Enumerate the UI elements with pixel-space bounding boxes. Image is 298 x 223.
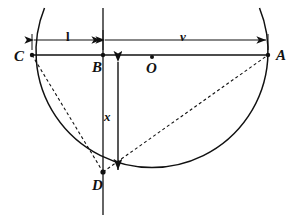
figure-canvas xyxy=(0,0,298,223)
point-B-marker xyxy=(101,53,105,57)
point-D-marker xyxy=(100,169,105,174)
point-C-marker xyxy=(30,53,34,57)
point-label-B: B xyxy=(92,60,102,75)
dimension-label-v: v xyxy=(180,30,186,43)
point-label-O: O xyxy=(146,61,157,76)
point-A-marker xyxy=(266,53,270,57)
circle-arc xyxy=(36,8,268,168)
point-O-marker xyxy=(150,55,154,59)
dashed-segment-DA xyxy=(103,55,268,172)
point-label-C: C xyxy=(14,49,24,64)
dimension-label-x: x xyxy=(104,110,111,123)
point-label-D: D xyxy=(92,178,103,193)
dimension-label-l: l xyxy=(66,30,70,43)
geometry-figure: C B O A D l v x xyxy=(0,0,298,223)
point-label-A: A xyxy=(276,48,286,63)
